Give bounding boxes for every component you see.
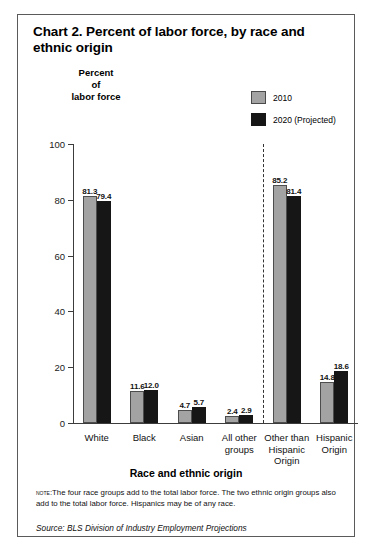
chart-legend: 2010 2020 (Projected) <box>251 91 371 135</box>
chart-note-text: The four race groups add to the total la… <box>36 488 336 508</box>
x-tick-label-line: Origin <box>256 455 318 467</box>
y-tick-label: 0 <box>60 418 65 429</box>
x-tick-label-line: Hispanic <box>303 432 365 444</box>
y-tick-label: 100 <box>49 139 65 150</box>
bar-value-label: 79.4 <box>96 192 111 201</box>
y-tick-label: 20 <box>54 362 65 373</box>
bar-pair: 2.42.9 <box>216 144 264 423</box>
bar-value-label: 81.3 <box>82 187 97 196</box>
x-axis-title: Race and ethnic origin <box>18 467 354 479</box>
bar-value-label: 14.8 <box>320 373 335 382</box>
y-axis-caption-line-2: of <box>54 79 138 91</box>
y-tick-label: 60 <box>54 250 65 261</box>
bar-2020[interactable]: 2.9 <box>239 415 253 423</box>
x-tick-label: HispanicOrigin <box>303 432 365 455</box>
y-axis-caption: Percent of labor force <box>54 67 138 103</box>
bar-2010[interactable]: 4.7 <box>178 410 192 423</box>
legend-item-2020: 2020 (Projected) <box>251 113 371 126</box>
bar-group: 14.818.6HispanicOrigin <box>311 144 359 423</box>
bar-value-label: 2.9 <box>241 406 252 415</box>
bar-value-label: 85.2 <box>272 176 287 185</box>
page-title: Chart 2. Percent of labor force, by race… <box>33 24 341 57</box>
bar-2020[interactable]: 81.4 <box>287 196 301 423</box>
bar-value-label: 11.6 <box>130 382 144 391</box>
bar-2020[interactable]: 18.6 <box>334 371 348 423</box>
bar-group: 2.42.9All othergroups <box>216 144 264 423</box>
y-axis-caption-line-3: labor force <box>54 91 138 103</box>
chart-source: Source: BLS Division of Industry Employm… <box>36 523 336 533</box>
chart-note-lead: Note: <box>36 488 52 497</box>
bar-pair: 14.818.6 <box>311 144 359 423</box>
bar-group: 85.281.4Other thanHispanicOrigin <box>263 144 311 423</box>
bar-group: 11.612.0Black <box>121 144 169 423</box>
chart-figure-panel: Chart 2. Percent of labor force, by race… <box>17 14 355 537</box>
bar-value-label: 18.6 <box>334 362 349 371</box>
bar-2010[interactable]: 2.4 <box>225 416 239 423</box>
bar-pair: 81.379.4 <box>73 144 121 423</box>
bar-pair: 85.281.4 <box>263 144 311 423</box>
bar-value-label: 12.0 <box>144 381 159 390</box>
bar-pair: 4.75.7 <box>168 144 216 423</box>
bar-group: 81.379.4White <box>73 144 121 423</box>
bar-2010[interactable]: 14.8 <box>320 382 334 423</box>
bar-value-label: 2.4 <box>227 407 238 416</box>
legend-swatch-2010 <box>251 91 266 104</box>
bar-2020[interactable]: 12.0 <box>144 390 158 423</box>
y-tick-label: 40 <box>54 306 65 317</box>
x-tick-label-line: Origin <box>303 444 365 456</box>
bar-group: 4.75.7Asian <box>168 144 216 423</box>
bar-2010[interactable]: 85.2 <box>273 185 287 423</box>
legend-label-2020: 2020 (Projected) <box>273 115 336 125</box>
plot-area: 020406080100 81.379.4White11.612.0Black4… <box>73 144 358 423</box>
legend-swatch-2020 <box>251 113 266 126</box>
bar-2020[interactable]: 5.7 <box>192 407 206 423</box>
bar-2010[interactable]: 81.3 <box>83 196 97 423</box>
bar-2010[interactable]: 11.6 <box>130 391 144 423</box>
bar-value-label: 81.4 <box>286 187 301 196</box>
y-tick-mark <box>68 423 73 424</box>
bar-value-label: 4.7 <box>179 401 190 410</box>
y-tick-label: 80 <box>54 194 65 205</box>
chart-note: Note:The four race groups add to the tot… <box>36 487 336 510</box>
legend-item-2010: 2010 <box>251 91 371 104</box>
bar-2020[interactable]: 79.4 <box>97 201 111 423</box>
bar-pair: 11.612.0 <box>121 144 169 423</box>
legend-label-2010: 2010 <box>273 93 292 103</box>
y-axis-caption-line-1: Percent <box>54 67 138 79</box>
x-axis-line <box>73 423 358 424</box>
bar-value-label: 5.7 <box>193 398 204 407</box>
